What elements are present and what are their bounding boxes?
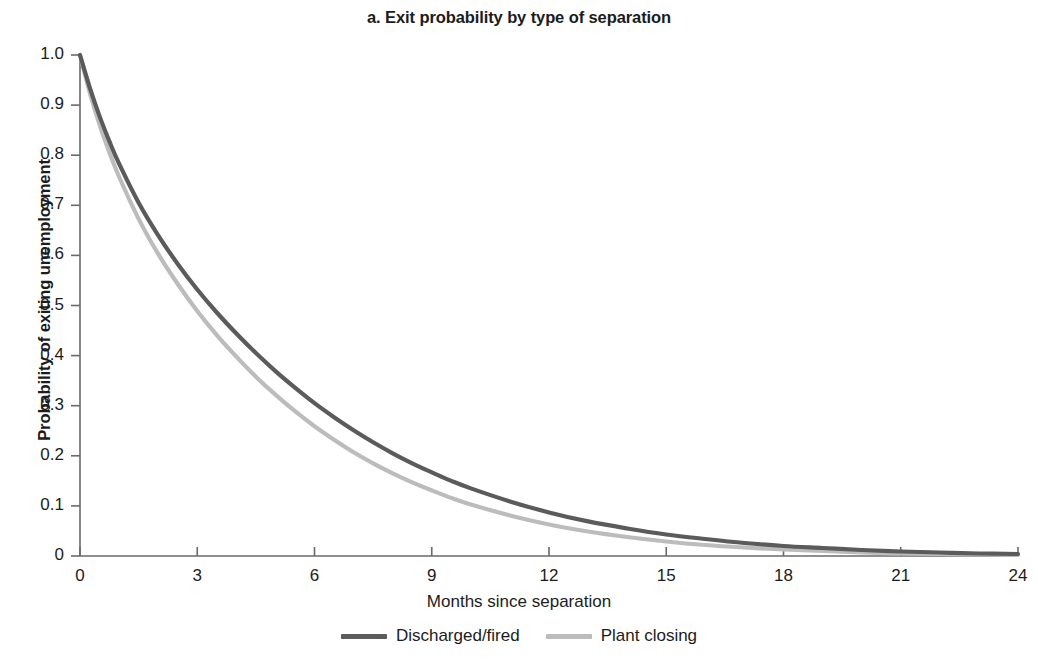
legend-line-swatch-icon: [341, 634, 387, 639]
y-axis-tick-label: 0.1: [8, 495, 64, 515]
legend-line-swatch-icon: [546, 634, 592, 639]
y-axis-tick-label: 0.5: [8, 295, 64, 315]
x-axis-tick-label: 21: [881, 566, 921, 586]
y-axis-tick-label: 0.7: [8, 194, 64, 214]
y-axis-tick-label: 0.2: [8, 445, 64, 465]
x-axis-tick-label: 15: [646, 566, 686, 586]
legend-label: Discharged/fired: [396, 626, 520, 646]
y-axis-tick-label: 0.9: [8, 94, 64, 114]
y-axis-tick-label: 0.3: [8, 395, 64, 415]
y-axis-tick-label: 0.6: [8, 244, 64, 264]
y-axis-tick-label: 0.4: [8, 345, 64, 365]
chart-figure: a. Exit probability by type of separatio…: [0, 0, 1038, 661]
plot-area: [0, 0, 1038, 661]
chart-legend: Discharged/firedPlant closing: [0, 626, 1038, 646]
x-axis-title: Months since separation: [0, 592, 1038, 612]
legend-label: Plant closing: [601, 626, 697, 646]
series-line: [80, 55, 1018, 554]
data-series: [80, 55, 1018, 555]
x-axis-tick-label: 6: [295, 566, 335, 586]
x-axis-tick-label: 0: [60, 566, 100, 586]
x-axis-tick-label: 3: [177, 566, 217, 586]
x-axis-tick-label: 24: [998, 566, 1038, 586]
x-axis-tick-label: 18: [764, 566, 804, 586]
series-line: [80, 55, 1018, 555]
y-axis-tick-label: 0.8: [8, 144, 64, 164]
y-axis-tick-label: 0: [8, 545, 64, 565]
y-axis-tick-label: 1.0: [8, 44, 64, 64]
legend-item[interactable]: Plant closing: [546, 626, 697, 646]
legend-item[interactable]: Discharged/fired: [341, 626, 520, 646]
x-axis-tick-label: 9: [412, 566, 452, 586]
x-axis-tick-label: 12: [529, 566, 569, 586]
